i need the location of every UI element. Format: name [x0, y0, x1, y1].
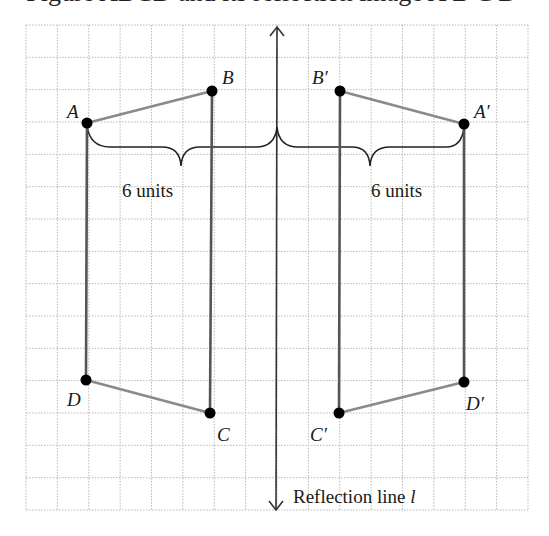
reflection-line-label: Reflection line l — [293, 486, 415, 507]
edge-da — [86, 123, 87, 380]
label-c-prime: C′ — [310, 424, 328, 445]
reflection-line-variable: l — [410, 486, 415, 507]
point-b — [207, 86, 218, 97]
distance-label-right: 6 units — [371, 180, 422, 201]
brace-right — [277, 127, 464, 166]
label-b: B — [222, 67, 234, 88]
label-d-prime: D′ — [465, 393, 485, 414]
edge-cd — [86, 380, 210, 413]
point-c-prime — [334, 408, 345, 419]
point-a — [82, 118, 93, 129]
distance-label-left: 6 units — [122, 180, 173, 201]
point-a-prime — [459, 119, 470, 130]
figure-abcd-prime — [334, 86, 470, 419]
label-a: A — [65, 101, 79, 122]
point-c — [205, 408, 216, 419]
edge-bc — [210, 91, 212, 413]
point-b-prime — [335, 86, 346, 97]
reflection-diagram: Figure ABCD and its reflection image A′B… — [0, 0, 549, 536]
edge-ab — [87, 91, 212, 123]
point-d — [81, 375, 92, 386]
label-b-prime: B′ — [312, 67, 329, 88]
point-d-prime — [459, 377, 470, 388]
label-c: C — [217, 424, 230, 445]
edge-c2d2 — [339, 382, 464, 413]
figure-abcd — [81, 86, 218, 419]
label-d: D — [66, 389, 81, 410]
reflection-line-label-text: Reflection line — [293, 486, 410, 507]
brace-left — [87, 126, 277, 166]
reflection-line — [269, 27, 284, 510]
label-a-prime: A′ — [472, 101, 491, 122]
edge-b2c2 — [339, 91, 340, 413]
